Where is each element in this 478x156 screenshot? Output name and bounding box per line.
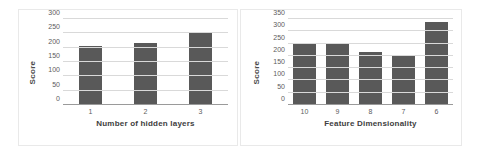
y-tick-label: 0 — [281, 95, 285, 102]
x-tick-label: 1 — [63, 108, 118, 115]
y-axis-title-right: Score — [252, 50, 261, 96]
x-tick-label: 3 — [173, 108, 228, 115]
x-tick-label: 6 — [420, 108, 453, 115]
x-tick-label: 2 — [118, 108, 173, 115]
bar — [293, 43, 316, 105]
y-tick-label: 350 — [273, 9, 285, 16]
chart-panel-hidden-layers: Score 123 Number of hidden layers 050100… — [18, 9, 238, 146]
gridline — [63, 75, 228, 76]
gridline — [288, 43, 453, 44]
y-tick-label: 150 — [48, 52, 60, 59]
y-tick-label: 150 — [273, 58, 285, 65]
plot-area-left: 123 Number of hidden layers 050100150200… — [63, 19, 228, 105]
x-tick-label: 8 — [354, 108, 387, 115]
y-tick-label: 50 — [52, 80, 60, 87]
x-tick-label: 9 — [321, 108, 354, 115]
gridline — [63, 18, 228, 19]
y-tick-label: 300 — [48, 9, 60, 16]
y-tick-label: 200 — [48, 37, 60, 44]
gridline — [288, 67, 453, 68]
gridline — [288, 30, 453, 31]
y-tick-label: 50 — [277, 82, 285, 89]
x-axis-title-right: Feature Dimensionality — [288, 119, 453, 128]
gridline — [63, 104, 228, 105]
x-tick-label: 7 — [387, 108, 420, 115]
y-tick-label: 200 — [273, 45, 285, 52]
x-tick-labels-right: 109876 — [288, 108, 453, 115]
bar — [134, 43, 157, 105]
y-tick-label: 250 — [273, 33, 285, 40]
y-tick-label: 0 — [56, 95, 60, 102]
y-axis-title-left: Score — [28, 50, 37, 96]
x-axis-title-left: Number of hidden layers — [63, 119, 228, 128]
gridline — [63, 61, 228, 62]
y-tick-label: 100 — [273, 70, 285, 77]
gridline — [288, 79, 453, 80]
gridline — [63, 32, 228, 33]
x-tick-label: 10 — [288, 108, 321, 115]
bar — [189, 33, 212, 105]
figure-container: Score 123 Number of hidden layers 050100… — [0, 0, 478, 156]
chart-panel-feature-dimensionality: Score 109876 Feature Dimensionality 0501… — [240, 9, 462, 146]
y-tick-label: 250 — [48, 23, 60, 30]
bar — [326, 43, 349, 105]
y-tick-label: 300 — [273, 21, 285, 28]
gridline — [288, 104, 453, 105]
gridline — [63, 47, 228, 48]
y-tick-label: 100 — [48, 66, 60, 73]
gridline — [288, 55, 453, 56]
gridline — [63, 90, 228, 91]
gridline — [288, 18, 453, 19]
plot-area-right: 109876 Feature Dimensionality 0501001502… — [288, 19, 453, 105]
x-tick-labels-left: 123 — [63, 108, 228, 115]
gridline — [288, 92, 453, 93]
